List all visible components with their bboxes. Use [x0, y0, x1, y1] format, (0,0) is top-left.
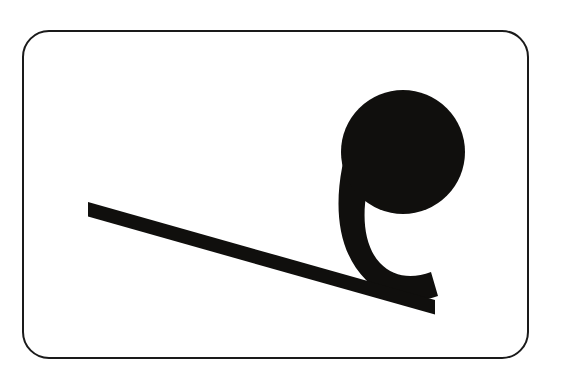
ball-circle — [341, 90, 465, 214]
pictogram-illustration: Inclined plane with ball pictogram — [0, 0, 563, 389]
pictogram-canvas: Inclined plane with ball pictogram — [0, 0, 563, 389]
rounded-rectangle-border — [23, 31, 528, 358]
